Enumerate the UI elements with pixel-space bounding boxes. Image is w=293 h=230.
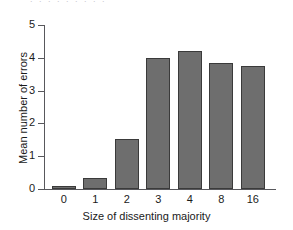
y-axis-line <box>44 25 45 190</box>
x-axis-title: Size of dissenting majority <box>0 210 293 223</box>
bar <box>115 139 139 189</box>
bar <box>52 186 76 189</box>
y-axis-tick <box>38 58 44 59</box>
bar <box>209 63 233 189</box>
y-axis-tick <box>38 189 44 190</box>
x-axis-tick-label: 4 <box>174 193 206 205</box>
x-axis-line <box>44 189 276 190</box>
x-axis-tick-label: 0 <box>48 193 80 205</box>
bar-chart-figure: 012345 01234816 Size of dissenting major… <box>0 0 293 230</box>
x-axis-tick-label: 3 <box>143 193 175 205</box>
x-axis-tick-label: 16 <box>237 193 269 205</box>
y-axis-tick <box>38 156 44 157</box>
bar <box>178 51 202 189</box>
y-axis-title: Mean number of errors <box>17 33 29 183</box>
y-axis-tick <box>38 25 44 26</box>
y-axis-tick-label: 5 <box>22 19 35 30</box>
bar <box>241 66 265 189</box>
y-axis-tick <box>38 123 44 124</box>
y-axis-tick <box>38 91 44 92</box>
bar <box>83 178 107 189</box>
x-axis-tick-label: 1 <box>80 193 112 205</box>
x-axis-tick-label: 8 <box>206 193 238 205</box>
y-axis-tick-label: 0 <box>22 183 35 194</box>
plot-area <box>48 25 272 189</box>
x-axis-tick-label: 2 <box>111 193 143 205</box>
bar <box>146 58 170 189</box>
